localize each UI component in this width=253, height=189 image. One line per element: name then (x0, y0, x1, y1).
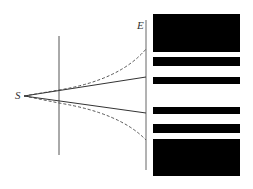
fringe-band-6 (153, 139, 240, 176)
ray-upper (24, 77, 146, 96)
screen-label: E (137, 20, 144, 31)
fringe-band-3 (153, 77, 240, 84)
source-label: S (15, 90, 21, 101)
fringe-band-1 (153, 14, 240, 52)
fringe-pattern (153, 14, 240, 176)
ray-lower (24, 96, 146, 113)
fringe-band-5 (153, 124, 240, 133)
diffraction-diagram (0, 0, 253, 189)
envelope-lower (24, 96, 146, 140)
fringe-band-2 (153, 57, 240, 66)
envelope-upper (24, 49, 146, 96)
fringe-band-4 (153, 107, 240, 114)
